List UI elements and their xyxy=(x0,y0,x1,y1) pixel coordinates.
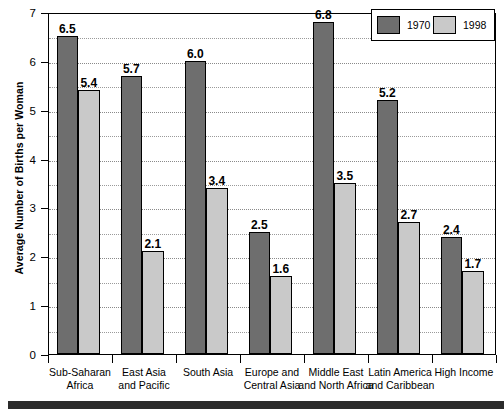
x-axis-tick xyxy=(304,355,305,363)
y-axis-tick xyxy=(41,111,48,112)
bar-value-label: 1.6 xyxy=(272,262,289,276)
y-axis-tick-label: 7 xyxy=(0,7,36,19)
category-label-line: and Pacific xyxy=(106,379,182,392)
y-axis-tick-label: 5 xyxy=(0,105,36,117)
bar-1970-1[interactable]: 6.5 xyxy=(57,36,79,354)
bar-1970-3[interactable]: 6.0 xyxy=(185,61,207,354)
bar-1998-1[interactable]: 5.4 xyxy=(78,90,100,354)
bar-1998-3[interactable]: 3.4 xyxy=(206,188,228,354)
chart-legend: 19701998 xyxy=(371,9,495,41)
category-label-line: High Income xyxy=(426,366,502,379)
bar-1998-2[interactable]: 2.1 xyxy=(142,251,164,354)
scan-artifact-band xyxy=(8,401,504,409)
bar-group: 5.22.7 xyxy=(377,14,420,354)
plot-area: 6.55.45.72.16.03.42.51.66.83.55.22.72.41… xyxy=(48,13,496,355)
bar-value-label: 2.7 xyxy=(400,208,417,222)
x-axis-category-label: High Income xyxy=(426,366,502,379)
x-axis-tick xyxy=(368,355,369,363)
bar-group: 2.41.7 xyxy=(441,14,484,354)
bar-value-label: 6.0 xyxy=(187,47,204,61)
bar-1998-5[interactable]: 3.5 xyxy=(334,183,356,354)
legend-label: 1970 xyxy=(407,19,430,31)
y-axis-title: Average Number of Births per Woman xyxy=(13,53,25,303)
plot-inner: 6.55.45.72.16.03.42.51.66.83.55.22.72.41… xyxy=(49,14,495,354)
y-axis-tick-label: 6 xyxy=(0,56,36,68)
bar-value-label: 2.4 xyxy=(443,223,460,237)
bar-value-label: 5.2 xyxy=(379,86,396,100)
bar-group: 6.83.5 xyxy=(313,14,356,354)
bar-1998-6[interactable]: 2.7 xyxy=(398,222,420,354)
bar-chart-figure: Average Number of Births per Woman 6.55.… xyxy=(0,0,504,411)
bar-value-label: 2.5 xyxy=(251,218,268,232)
bar-group: 5.72.1 xyxy=(121,14,164,354)
x-axis-tick xyxy=(240,355,241,363)
x-axis-tick xyxy=(496,355,497,363)
bar-1970-2[interactable]: 5.7 xyxy=(121,76,143,354)
bar-1970-4[interactable]: 2.5 xyxy=(249,232,271,354)
y-axis-tick-label: 1 xyxy=(0,300,36,312)
bar-1970-6[interactable]: 5.2 xyxy=(377,100,399,354)
bar-group: 2.51.6 xyxy=(249,14,292,354)
y-axis-tick-label: 0 xyxy=(0,349,36,361)
bar-value-label: 2.1 xyxy=(144,237,161,251)
bar-1970-5[interactable]: 6.8 xyxy=(313,22,335,354)
y-axis-tick xyxy=(41,13,48,14)
y-axis-tick xyxy=(41,257,48,258)
bar-group: 6.55.4 xyxy=(57,14,100,354)
y-axis-tick xyxy=(41,355,48,356)
x-axis-tick xyxy=(176,355,177,363)
y-axis-tick xyxy=(41,306,48,307)
bar-value-label: 3.5 xyxy=(336,169,353,183)
bar-value-label: 3.4 xyxy=(208,174,225,188)
legend-swatch-1970 xyxy=(377,16,400,34)
bar-value-label: 6.8 xyxy=(315,8,332,22)
legend-swatch-1998 xyxy=(433,16,456,34)
legend-item-1970[interactable]: 1970 xyxy=(377,16,433,34)
bar-1998-4[interactable]: 1.6 xyxy=(270,276,292,354)
x-axis-tick xyxy=(432,355,433,363)
bar-value-label: 5.7 xyxy=(123,62,140,76)
bar-value-label: 6.5 xyxy=(59,22,76,36)
category-label-line: and Caribbean xyxy=(362,379,438,392)
y-axis-tick-label: 4 xyxy=(0,154,36,166)
y-axis-tick-label: 3 xyxy=(0,202,36,214)
bar-value-label: 1.7 xyxy=(464,257,481,271)
y-axis-tick-label: 2 xyxy=(0,251,36,263)
bar-group: 6.03.4 xyxy=(185,14,228,354)
x-axis-tick xyxy=(112,355,113,363)
legend-item-1998[interactable]: 1998 xyxy=(433,16,489,34)
bar-1970-7[interactable]: 2.4 xyxy=(441,237,463,354)
bar-value-label: 5.4 xyxy=(80,76,97,90)
y-axis-tick xyxy=(41,160,48,161)
x-axis-tick xyxy=(48,355,49,363)
y-axis-tick xyxy=(41,62,48,63)
legend-label: 1998 xyxy=(463,19,486,31)
y-axis-tick xyxy=(41,208,48,209)
bar-1998-7[interactable]: 1.7 xyxy=(462,271,484,354)
